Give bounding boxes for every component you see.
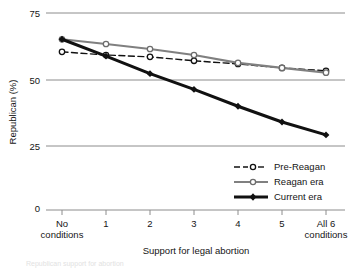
x-axis-title: Support for legal abortion xyxy=(143,245,250,256)
x-tick-label-6-line1: All 6 xyxy=(317,218,335,229)
legend-item-reagan-era[interactable]: Reagan era xyxy=(234,176,324,187)
data-point xyxy=(191,52,196,57)
data-point xyxy=(103,41,108,46)
x-tick-label-4: 4 xyxy=(235,218,240,229)
x-tick-label-2: 2 xyxy=(147,218,152,229)
legend-item-current-era[interactable]: Current era xyxy=(234,191,323,202)
legend-label-reagan-era: Reagan era xyxy=(274,176,324,187)
legend-item-pre-reagan[interactable]: Pre-Reagan xyxy=(234,161,325,172)
x-tick-label-6-line2: conditions xyxy=(305,229,348,240)
y-tick-labels: 75 50 25 0 xyxy=(29,8,40,214)
x-tick-label-5: 5 xyxy=(279,218,284,229)
data-point xyxy=(59,49,64,54)
y-axis-title: Republican (%) xyxy=(7,80,18,145)
x-tick-label-3: 3 xyxy=(191,218,196,229)
chart-figure: 75 50 25 0 Republican (%) No conditions … xyxy=(0,0,353,268)
data-point xyxy=(191,58,196,63)
legend-label-current-era: Current era xyxy=(274,191,323,202)
data-point xyxy=(323,131,330,138)
legend-marker-reagan-era xyxy=(250,179,255,184)
data-point xyxy=(147,54,152,59)
series-current-era xyxy=(59,36,330,138)
y-tick-label-50: 50 xyxy=(29,75,40,86)
data-point xyxy=(235,60,240,65)
data-series-layer xyxy=(59,36,330,138)
data-point xyxy=(323,70,328,75)
data-point xyxy=(279,65,284,70)
legend-label-pre-reagan: Pre-Reagan xyxy=(274,161,325,172)
chart-legend: Pre-Reagan Reagan era Current era xyxy=(234,161,325,202)
x-tick-labels: No conditions 1 2 3 4 5 All 6 conditions xyxy=(41,218,348,240)
line-chart-svg: 75 50 25 0 Republican (%) No conditions … xyxy=(0,0,353,268)
x-axis xyxy=(46,210,345,215)
y-tick-label-25: 25 xyxy=(29,141,40,152)
x-tick-label-1: 1 xyxy=(103,218,108,229)
caption-fragment: Republican support for abortion xyxy=(0,260,353,268)
y-tick-label-0: 0 xyxy=(35,203,40,214)
legend-marker-current-era xyxy=(250,193,257,201)
data-point xyxy=(147,46,152,51)
legend-marker-pre-reagan xyxy=(250,164,255,169)
series-reagan-era xyxy=(59,37,328,76)
x-tick-label-0-line2: conditions xyxy=(41,229,84,240)
y-tick-label-75: 75 xyxy=(29,8,40,19)
x-tick-label-0-line1: No xyxy=(56,218,68,229)
